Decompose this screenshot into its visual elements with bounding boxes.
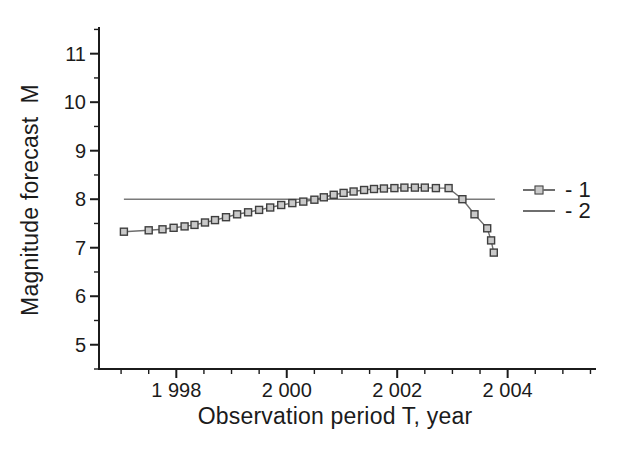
data-point-marker [145,227,152,234]
data-point-marker [340,189,347,196]
data-point-marker [380,185,387,192]
y-axis-title: Magnitude forecast M [17,84,44,316]
data-point-marker [170,224,177,231]
data-point-marker [267,204,274,211]
svg-text:2 002: 2 002 [372,379,422,401]
data-point-marker [300,198,307,205]
svg-text:9: 9 [75,140,86,162]
data-point-marker [471,211,478,218]
svg-text:2 004: 2 004 [483,379,533,401]
data-point-marker [459,196,466,203]
data-point-marker [191,221,198,228]
data-point-marker [330,191,337,198]
svg-text:2 000: 2 000 [262,379,312,401]
svg-text:10: 10 [64,91,86,113]
x-axis-tick-labels: 1 9982 0002 0022 004 [151,379,532,401]
svg-text:5: 5 [75,334,86,356]
data-point-marker [361,187,368,194]
series1-line-with-square-marker-icon [521,185,557,195]
x-axis-ticks [121,369,590,378]
data-point-marker [411,184,418,191]
data-point-marker [159,226,166,233]
data-point-marker [432,185,439,192]
data-point-marker [401,184,408,191]
data-point-marker [234,211,241,218]
data-point-marker [212,217,219,224]
data-point-marker [311,196,318,203]
data-point-marker [289,200,296,207]
data-point-marker [223,214,230,221]
data-point-marker [120,228,127,235]
data-point-marker [445,185,452,192]
series-1 [120,184,497,256]
svg-text:7: 7 [75,237,86,259]
data-point-marker [490,249,497,256]
data-point-marker [256,206,263,213]
data-point-marker [421,184,428,191]
svg-text:1 998: 1 998 [151,379,201,401]
legend-entry-series2: - 2 [521,200,591,221]
chart-figure: 1 9982 0002 0022 004567891011 Observatio… [0,0,624,456]
data-point-marker [371,186,378,193]
data-point-marker [484,225,491,232]
data-point-marker [391,185,398,192]
series2-line-icon [521,206,557,216]
svg-text:11: 11 [65,43,86,65]
svg-text:6: 6 [75,285,86,307]
x-axis-title: Observation period T, year [85,403,585,430]
data-point-marker [202,219,209,226]
data-point-marker [278,202,285,209]
plot-canvas: 1 9982 0002 0022 004567891011 [0,0,624,456]
svg-text:8: 8 [75,188,86,210]
data-point-marker [181,223,188,230]
y-axis-ticks [90,29,99,369]
data-point-marker [488,237,495,244]
y-axis-tick-labels: 567891011 [64,43,86,356]
data-point-marker [245,209,252,216]
legend: - 1 - 2 [521,179,591,221]
legend-label-series2: - 2 [565,198,591,224]
square-marker-icon [535,185,544,194]
data-point-marker [350,188,357,195]
data-point-marker [320,194,327,201]
